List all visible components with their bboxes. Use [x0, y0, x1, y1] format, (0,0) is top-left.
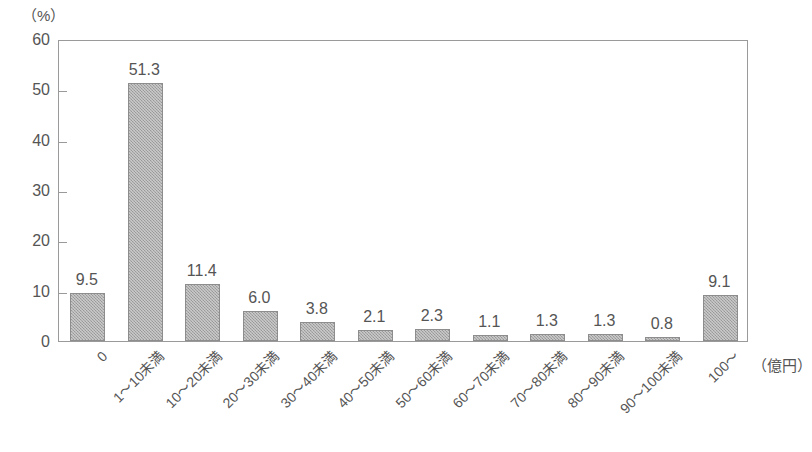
y-axis-tick-label: 60 — [32, 32, 50, 48]
bar — [358, 330, 393, 341]
x-axis-category-label: 30〜40未満 — [277, 348, 340, 411]
y-axis-tick — [59, 192, 67, 193]
bar — [185, 284, 220, 341]
y-axis-tick-label: 50 — [32, 82, 50, 98]
x-axis-category-label: 50〜60未満 — [392, 348, 455, 411]
bar-chart: （%） 0102030405060 9.551.311.46.03.82.12.… — [0, 0, 812, 452]
bar-value-label: 3.8 — [287, 301, 347, 317]
y-axis-tick-label: 20 — [32, 233, 50, 249]
x-axis-category-label: 60〜70未満 — [450, 348, 513, 411]
x-axis-category-label: 1〜10未満 — [110, 348, 168, 406]
bar-value-label: 11.4 — [172, 263, 232, 279]
x-axis-category-label: 70〜80未満 — [507, 348, 570, 411]
bar-value-label: 1.3 — [517, 313, 577, 329]
x-axis-unit-label: （億円） — [752, 354, 812, 375]
bar-value-label: 9.1 — [689, 274, 749, 290]
bar-value-label: 51.3 — [114, 62, 174, 78]
bar — [588, 334, 623, 341]
bar — [70, 293, 105, 341]
y-axis-tick — [59, 293, 67, 294]
plot-area — [58, 40, 748, 342]
x-axis-category-label: 0 — [93, 348, 110, 365]
y-axis-tick-label: 30 — [32, 183, 50, 199]
bar-value-label: 2.1 — [344, 309, 404, 325]
bar — [128, 83, 163, 341]
y-axis-tick — [59, 242, 67, 243]
bar — [530, 334, 565, 341]
bar — [300, 322, 335, 341]
bar-value-label: 9.5 — [57, 272, 117, 288]
bar-value-label: 0.8 — [632, 316, 692, 332]
y-axis-tick-label: 0 — [41, 334, 50, 350]
bar — [703, 295, 738, 341]
x-axis-category-label: 80〜90未満 — [565, 348, 628, 411]
bar — [473, 335, 508, 341]
bar — [645, 337, 680, 341]
y-axis-tick — [59, 142, 67, 143]
x-axis-category-label: 100〜 — [705, 348, 743, 386]
bar-value-label: 1.1 — [459, 314, 519, 330]
bar-value-label: 6.0 — [229, 290, 289, 306]
bar-value-label: 2.3 — [402, 308, 462, 324]
bar — [415, 329, 450, 341]
x-axis-category-label: 40〜50未満 — [335, 348, 398, 411]
x-axis-category-label: 20〜30未満 — [220, 348, 283, 411]
x-axis-category-label: 10〜20未満 — [162, 348, 225, 411]
y-axis-tick-label: 40 — [32, 133, 50, 149]
bar — [243, 311, 278, 341]
y-axis-unit-label: （%） — [22, 4, 65, 25]
y-axis-tick — [59, 91, 67, 92]
bar-value-label: 1.3 — [574, 313, 634, 329]
y-axis-tick-label: 10 — [32, 284, 50, 300]
